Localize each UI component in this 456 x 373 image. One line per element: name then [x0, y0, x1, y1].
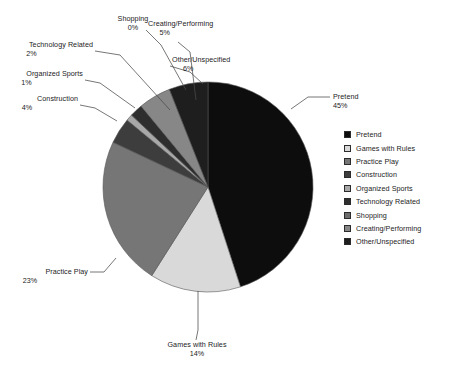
callout-practice-play-label: Practice Play	[0, 267, 88, 276]
leader-line-organized-sports	[85, 80, 135, 108]
callout-technology-related-value: 2%	[0, 49, 93, 58]
callout-other-unspecified-value: 6%	[172, 64, 230, 73]
legend-item[interactable]: Organized Sports	[344, 182, 456, 195]
callout-construction-value: 4%	[0, 103, 78, 112]
callout-pretend-label: Pretend	[333, 92, 364, 101]
legend-item-label: Practice Play	[356, 157, 399, 166]
legend-swatch-icon	[344, 185, 351, 192]
legend-item-label: Organized Sports	[356, 184, 413, 193]
chart-legend: PretendGames with RulesPractice PlayCons…	[344, 128, 456, 249]
legend-swatch-icon	[344, 171, 351, 178]
callout-games-with-rules-value: 14%	[155, 349, 239, 358]
leader-line-pretend	[291, 97, 330, 109]
legend-swatch-icon	[344, 158, 351, 165]
callout-games-with-rules: Games with Rules 14%	[155, 340, 239, 358]
legend-item[interactable]: Creating/Performing	[344, 222, 456, 235]
callout-organized-sports: Organized Sports 1%	[0, 69, 83, 87]
leader-line-construction	[80, 105, 117, 121]
callout-games-with-rules-label: Games with Rules	[155, 340, 239, 349]
legend-item[interactable]: Shopping	[344, 208, 456, 221]
legend-item[interactable]: Pretend	[344, 128, 456, 141]
legend-item[interactable]: Other/Unspecified	[344, 235, 456, 248]
callout-other-unspecified: Other/Unspecified 6%	[172, 55, 230, 73]
legend-item[interactable]: Practice Play	[344, 155, 456, 168]
callout-creating-performing: Creating/Performing 5%	[148, 19, 213, 37]
callout-pretend-value: 45%	[333, 101, 364, 110]
legend-item[interactable]: Games with Rules	[344, 141, 456, 154]
legend-item-label: Games with Rules	[356, 144, 415, 153]
callout-technology-related-label: Technology Related	[0, 40, 93, 49]
callout-practice-play-value: 23%	[0, 276, 88, 285]
pie-chart: Shopping 0% Creating/Performing 5% Techn…	[0, 0, 456, 373]
legend-item-label: Technology Related	[356, 197, 420, 206]
legend-swatch-icon	[344, 145, 351, 152]
callout-organized-sports-value: 1%	[0, 78, 83, 87]
callout-other-unspecified-label: Other/Unspecified	[172, 55, 230, 64]
callout-organized-sports-label: Organized Sports	[0, 69, 83, 78]
legend-item-label: Other/Unspecified	[356, 237, 414, 246]
callout-construction-label: Construction	[0, 94, 78, 103]
leader-line-games-with-rules	[196, 291, 198, 340]
legend-swatch-icon	[344, 198, 351, 205]
callout-practice-play: Practice Play 23%	[0, 267, 88, 285]
legend-item-label: Pretend	[356, 130, 382, 139]
callout-creating-performing-value: 5%	[148, 28, 213, 37]
legend-item-label: Creating/Performing	[356, 224, 421, 233]
legend-item[interactable]: Construction	[344, 168, 456, 181]
legend-item-label: Construction	[356, 170, 397, 179]
callout-technology-related: Technology Related 2%	[0, 40, 93, 58]
leader-line-practice-play	[90, 258, 116, 272]
legend-swatch-icon	[344, 225, 351, 232]
callout-pretend: Pretend 45%	[333, 92, 364, 110]
callout-creating-performing-label: Creating/Performing	[148, 19, 213, 28]
callout-construction: Construction 4%	[0, 94, 78, 112]
pie-slice-group	[103, 82, 313, 292]
legend-item-label: Shopping	[356, 211, 387, 220]
legend-swatch-icon	[344, 131, 351, 138]
legend-swatch-icon	[344, 238, 351, 245]
legend-item[interactable]: Technology Related	[344, 195, 456, 208]
legend-swatch-icon	[344, 212, 351, 219]
